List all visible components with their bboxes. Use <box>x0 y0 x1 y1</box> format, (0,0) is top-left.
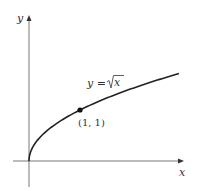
equation-radicand: x <box>114 76 121 89</box>
point-label: (1, 1) <box>78 117 105 128</box>
x-axis-label: x <box>179 166 186 179</box>
equation-label: y = x <box>86 76 124 91</box>
y-axis-arrow-icon <box>27 15 32 21</box>
sqrt-graph: y x (1, 1) y = x <box>0 0 198 191</box>
x-axis-arrow-icon <box>178 159 184 164</box>
y-axis-label: y <box>16 12 24 25</box>
point-1-1 <box>77 107 82 112</box>
equation-lhs: y = <box>86 77 109 90</box>
